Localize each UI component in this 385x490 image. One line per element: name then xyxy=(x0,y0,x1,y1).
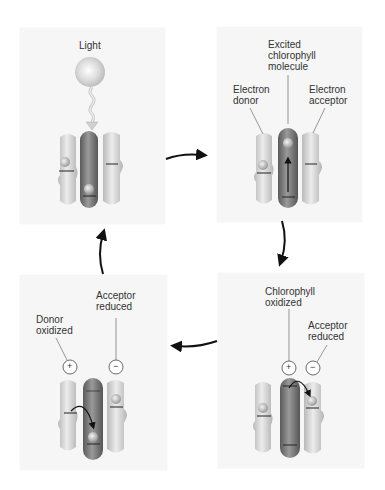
pigment-complex-step1 xyxy=(58,131,123,208)
arrow-step4-to-step1-icon xyxy=(100,234,103,274)
arrow-step3-to-step4-icon xyxy=(176,341,217,346)
pigment-complex-step2 xyxy=(254,128,322,208)
chlorophyll-oxidized-label: Chlorophyll oxidized xyxy=(265,286,315,308)
pigment-complex-step3 xyxy=(253,378,324,458)
pigment-complex-step4 xyxy=(58,378,127,460)
excited-chlorophyll-label: Excited chlorophyll molecule xyxy=(268,39,316,72)
donor-oxidized-label: Donor oxidized xyxy=(36,314,73,336)
minus-charge-step4: − xyxy=(113,361,118,372)
minus-charge-step3: − xyxy=(310,362,315,373)
arrow-step1-to-step2-icon xyxy=(166,155,202,160)
plus-charge-step4: + xyxy=(67,361,72,372)
diagram-artwork xyxy=(0,0,385,490)
acceptor-reduced-label-step4: Acceptor reduced xyxy=(96,290,135,312)
acceptor-reduced-label-step3: Acceptor reduced xyxy=(308,320,347,342)
electron-acceptor-label: Electron acceptor xyxy=(309,84,347,106)
arrow-step2-to-step3-icon xyxy=(281,221,285,261)
light-label: Light xyxy=(79,40,101,51)
plus-charge-step3: + xyxy=(286,362,291,373)
electron-donor-label: Electron donor xyxy=(233,84,270,106)
light-source-icon xyxy=(75,57,105,130)
